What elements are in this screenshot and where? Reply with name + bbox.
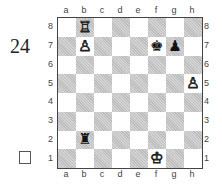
- square-f3[interactable]: [148, 112, 166, 131]
- square-g6[interactable]: [166, 56, 184, 75]
- white-king-icon[interactable]: ♔: [150, 151, 163, 166]
- square-d8[interactable]: [112, 18, 130, 37]
- square-e6[interactable]: [130, 56, 148, 75]
- square-e8[interactable]: [130, 18, 148, 37]
- rank-labels-left: 8 7 6 5 4 3 2 1: [48, 17, 53, 167]
- square-h1[interactable]: [184, 149, 202, 168]
- white-rook-icon[interactable]: ♖: [78, 20, 91, 35]
- square-b5[interactable]: [76, 74, 94, 93]
- square-b7[interactable]: ♙: [76, 37, 94, 56]
- diagram-number: 24: [10, 35, 30, 58]
- square-a6[interactable]: [58, 56, 76, 75]
- square-b1[interactable]: [76, 149, 94, 168]
- square-e5[interactable]: [130, 74, 148, 93]
- square-b6[interactable]: [76, 56, 94, 75]
- file-label: c: [93, 5, 111, 15]
- square-d1[interactable]: [112, 149, 130, 168]
- square-a3[interactable]: [58, 112, 76, 131]
- square-c6[interactable]: [94, 56, 112, 75]
- square-g7[interactable]: ♟: [166, 37, 184, 56]
- file-label: e: [129, 5, 147, 15]
- rank-label: 1: [204, 148, 209, 167]
- square-a8[interactable]: [58, 18, 76, 37]
- square-f4[interactable]: [148, 93, 166, 112]
- black-king-icon[interactable]: ♚: [150, 39, 163, 54]
- square-h4[interactable]: [184, 93, 202, 112]
- square-a2[interactable]: [58, 131, 76, 150]
- file-label: b: [75, 169, 93, 179]
- square-h2[interactable]: [184, 131, 202, 150]
- square-b3[interactable]: [76, 112, 94, 131]
- rank-label: 7: [204, 36, 209, 55]
- square-g8[interactable]: [166, 18, 184, 37]
- square-e3[interactable]: [130, 112, 148, 131]
- rank-label: 8: [48, 17, 53, 36]
- square-e2[interactable]: [130, 131, 148, 150]
- file-label: h: [183, 5, 201, 15]
- square-g3[interactable]: [166, 112, 184, 131]
- square-e4[interactable]: [130, 93, 148, 112]
- square-h6[interactable]: [184, 56, 202, 75]
- square-g1[interactable]: [166, 149, 184, 168]
- black-rook-icon[interactable]: ♜: [78, 132, 91, 147]
- file-label: b: [75, 5, 93, 15]
- white-pawn-icon[interactable]: ♙: [186, 76, 199, 91]
- square-h8[interactable]: [184, 18, 202, 37]
- solved-checkbox[interactable]: [19, 151, 31, 164]
- square-f2[interactable]: [148, 131, 166, 150]
- file-label: d: [111, 169, 129, 179]
- square-c1[interactable]: [94, 149, 112, 168]
- square-f6[interactable]: [148, 56, 166, 75]
- rank-label: 4: [204, 92, 209, 111]
- square-h3[interactable]: [184, 112, 202, 131]
- square-d4[interactable]: [112, 93, 130, 112]
- rank-label: 3: [204, 111, 209, 130]
- square-b2[interactable]: ♜: [76, 131, 94, 150]
- square-d7[interactable]: [112, 37, 130, 56]
- square-c4[interactable]: [94, 93, 112, 112]
- square-a4[interactable]: [58, 93, 76, 112]
- square-h5[interactable]: ♙: [184, 74, 202, 93]
- rank-label: 6: [48, 55, 53, 74]
- square-f7[interactable]: ♚: [148, 37, 166, 56]
- square-d6[interactable]: [112, 56, 130, 75]
- rank-label: 1: [48, 148, 53, 167]
- square-d2[interactable]: [112, 131, 130, 150]
- square-f8[interactable]: [148, 18, 166, 37]
- file-label: d: [111, 5, 129, 15]
- square-a7[interactable]: [58, 37, 76, 56]
- file-label: g: [165, 5, 183, 15]
- file-label: a: [57, 169, 75, 179]
- file-label: c: [93, 169, 111, 179]
- square-a1[interactable]: [58, 149, 76, 168]
- square-e7[interactable]: [130, 37, 148, 56]
- square-b4[interactable]: [76, 93, 94, 112]
- square-c7[interactable]: [94, 37, 112, 56]
- square-c5[interactable]: [94, 74, 112, 93]
- white-pawn-icon[interactable]: ♙: [78, 39, 91, 54]
- square-a5[interactable]: [58, 74, 76, 93]
- rank-label: 8: [204, 17, 209, 36]
- square-g4[interactable]: [166, 93, 184, 112]
- square-d3[interactable]: [112, 112, 130, 131]
- square-d5[interactable]: [112, 74, 130, 93]
- square-f1[interactable]: ♔: [148, 149, 166, 168]
- square-c8[interactable]: [94, 18, 112, 37]
- file-label: e: [129, 169, 147, 179]
- square-c2[interactable]: [94, 131, 112, 150]
- square-b8[interactable]: ♖: [76, 18, 94, 37]
- rank-label: 2: [204, 130, 209, 149]
- square-c3[interactable]: [94, 112, 112, 131]
- black-pawn-icon[interactable]: ♟: [168, 39, 181, 54]
- rank-label: 7: [48, 36, 53, 55]
- file-labels-top: a b c d e f g h: [57, 5, 203, 15]
- file-label: a: [57, 5, 75, 15]
- square-h7[interactable]: [184, 37, 202, 56]
- square-f5[interactable]: [148, 74, 166, 93]
- file-label: f: [147, 169, 165, 179]
- square-g2[interactable]: [166, 131, 184, 150]
- square-e1[interactable]: [130, 149, 148, 168]
- square-g5[interactable]: [166, 74, 184, 93]
- rank-label: 2: [48, 130, 53, 149]
- rank-label: 4: [48, 92, 53, 111]
